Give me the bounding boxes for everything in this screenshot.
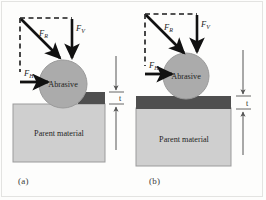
force-horizontal-label-a: FH [23, 68, 34, 79]
caption-b: (b) [149, 176, 160, 186]
abrasive-label-a: Abrasive [48, 80, 78, 89]
force-vertical-label-b: FV [200, 19, 211, 30]
panel-a-drawing: FR FV FH Abrasive Parent material t [0, 0, 133, 200]
force-horizontal-label-b: FH [148, 60, 159, 71]
force-resultant-label-b: FR [163, 22, 173, 33]
force-vertical-label-a: FV [75, 23, 86, 34]
panel-b: FR FV FH Abrasive Parent material t (b) [133, 0, 266, 200]
parent-material-label-b: Parent material [159, 135, 210, 144]
panel-b-drawing: FR FV FH Abrasive Parent material t [133, 0, 266, 200]
thickness-label-a: t [119, 94, 122, 103]
force-resultant-label-a: FR [38, 28, 48, 39]
caption-a: (a) [18, 176, 29, 186]
force-resultant-arrow-b [146, 15, 184, 53]
figure-container: FR FV FH Abrasive Parent material t (a) [0, 0, 266, 200]
panel-a: FR FV FH Abrasive Parent material t (a) [0, 0, 133, 200]
force-resultant-arrow-a [21, 19, 60, 58]
thickness-label-b: t [246, 99, 249, 108]
abrasive-label-b: Abrasive [171, 72, 201, 81]
parent-material-label-a: Parent material [34, 129, 85, 138]
